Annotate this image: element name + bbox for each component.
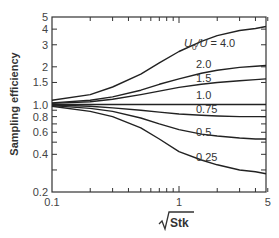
curve-label: 0.25 bbox=[196, 151, 217, 163]
curve-label: 0.75 bbox=[196, 103, 217, 115]
curve-label: 0.5 bbox=[196, 126, 211, 138]
x-tick-label: 0.1 bbox=[44, 196, 59, 208]
y-tick-label: 5 bbox=[42, 11, 48, 23]
y-tick-label: 2 bbox=[42, 61, 48, 73]
y-axis-label: Sampling efficiency bbox=[8, 51, 20, 155]
curve-labels: U0/U = 4.02.01.51.00.750.50.25 bbox=[184, 37, 235, 163]
x-tick-label: 1 bbox=[176, 196, 182, 208]
chart: 0.20.40.60.81.01.523450.115 U0/U = 4.02.… bbox=[0, 0, 279, 238]
x-tick-label: 5 bbox=[265, 196, 271, 208]
y-tick-label: 0.6 bbox=[33, 126, 48, 138]
curve-label: 1.5 bbox=[196, 72, 211, 84]
y-tick-label: 1.5 bbox=[33, 76, 48, 88]
y-tick-label: 0.8 bbox=[33, 111, 48, 123]
x-axis-label: Stk bbox=[159, 212, 194, 230]
curve bbox=[52, 66, 266, 103]
y-tick-label: 1.0 bbox=[33, 99, 48, 111]
curve bbox=[52, 79, 266, 104]
x-axis-label-text: Stk bbox=[170, 216, 189, 230]
curve-label: U0/U = 4.0 bbox=[184, 37, 235, 52]
y-tick-label: 3 bbox=[42, 39, 48, 51]
curve-label: 1.0 bbox=[196, 89, 211, 101]
y-tick-label: 0.4 bbox=[33, 148, 48, 160]
y-tick-label: 4 bbox=[42, 23, 48, 35]
curve-label: 2.0 bbox=[196, 58, 211, 70]
